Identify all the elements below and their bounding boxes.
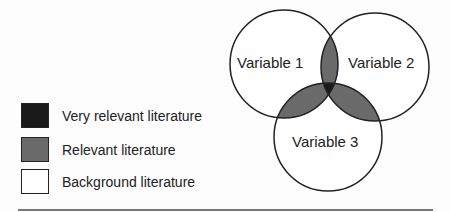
legend-item-relevant: Relevant literature — [21, 136, 49, 163]
swatch-background — [21, 169, 49, 194]
label-variable-2: Variable 2 — [348, 54, 414, 71]
swatch-very-relevant — [21, 103, 49, 128]
swatch-relevant — [21, 137, 49, 162]
legend-label: Relevant literature — [62, 142, 176, 158]
label-variable-1: Variable 1 — [237, 54, 303, 71]
label-variable-3: Variable 3 — [292, 133, 358, 150]
horizontal-rule — [18, 209, 433, 211]
legend-item-very-relevant: Very relevant literature — [21, 102, 49, 129]
legend-label: Background literature — [62, 174, 195, 190]
legend-item-background: Background literature — [21, 168, 49, 195]
legend-label: Very relevant literature — [62, 108, 202, 124]
